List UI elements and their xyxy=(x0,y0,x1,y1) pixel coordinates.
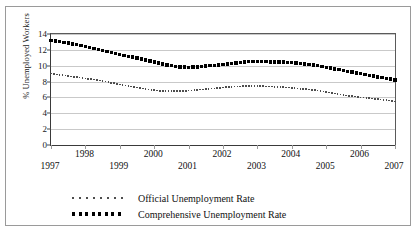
x-axis-tick-label: 2005 xyxy=(316,161,335,171)
data-point xyxy=(294,87,296,89)
data-point xyxy=(237,86,239,88)
data-point xyxy=(303,62,306,65)
data-point xyxy=(148,59,151,62)
data-point xyxy=(247,60,250,63)
data-point xyxy=(170,64,173,67)
legend-item-comprehensive: Comprehensive Unemployment Rate xyxy=(70,206,370,222)
data-point xyxy=(239,86,241,88)
data-point xyxy=(290,61,293,64)
data-point xyxy=(174,65,177,68)
data-point xyxy=(317,90,319,92)
data-point xyxy=(265,86,267,88)
data-point xyxy=(351,95,353,97)
y-axis-tick-mark xyxy=(47,129,51,130)
y-axis-tick-label: 12 xyxy=(38,45,47,55)
data-point xyxy=(90,78,92,80)
y-axis-tick-label: 10 xyxy=(38,61,47,71)
data-point xyxy=(56,74,58,76)
data-point xyxy=(204,64,207,67)
data-point xyxy=(305,88,307,90)
data-point xyxy=(325,91,327,93)
data-point xyxy=(348,95,350,97)
data-point xyxy=(182,90,184,92)
legend-marker-dot xyxy=(121,197,123,199)
data-point xyxy=(262,85,264,87)
data-point xyxy=(153,89,155,91)
data-point xyxy=(228,86,230,88)
x-axis-tick-mark xyxy=(189,145,190,149)
data-point xyxy=(62,41,65,44)
data-point xyxy=(145,88,147,90)
data-point xyxy=(288,87,290,89)
data-point xyxy=(363,97,365,99)
data-point xyxy=(299,62,302,65)
x-axis-tick-label: 1998 xyxy=(75,149,94,159)
legend-marker-dot xyxy=(72,212,75,215)
data-point xyxy=(359,72,362,75)
data-point xyxy=(131,55,134,58)
data-point xyxy=(199,89,201,91)
data-point xyxy=(226,62,229,65)
data-point xyxy=(225,86,227,88)
data-point xyxy=(194,89,196,91)
y-axis-tick-mark xyxy=(47,97,51,98)
data-point xyxy=(88,46,91,49)
gridline xyxy=(51,129,395,130)
data-point xyxy=(374,98,376,100)
data-point xyxy=(280,86,282,88)
data-point xyxy=(337,68,340,71)
data-point xyxy=(331,92,333,94)
data-point xyxy=(144,58,147,61)
data-point xyxy=(208,64,211,67)
data-point xyxy=(333,67,336,70)
data-point xyxy=(219,87,221,89)
data-point xyxy=(165,63,168,66)
legend-item-official: Official Unemployment Rate xyxy=(70,190,370,206)
data-point xyxy=(213,64,216,67)
data-point xyxy=(259,85,261,87)
data-point xyxy=(102,80,104,82)
data-point xyxy=(234,86,236,88)
gridline xyxy=(51,97,395,98)
data-point xyxy=(173,90,175,92)
x-axis-tick-label: 2002 xyxy=(213,149,232,159)
x-axis-tick-label: 1997 xyxy=(41,161,60,171)
legend-marker-dot xyxy=(72,197,74,199)
x-axis-tick-label: 2001 xyxy=(178,161,197,171)
data-point xyxy=(297,88,299,90)
data-point xyxy=(251,85,253,87)
data-point xyxy=(171,90,173,92)
data-point xyxy=(179,90,181,92)
data-point xyxy=(363,73,366,76)
y-axis-tick-mark xyxy=(47,81,51,82)
data-point xyxy=(108,81,110,83)
data-point xyxy=(239,61,242,64)
data-point xyxy=(125,85,127,87)
data-point xyxy=(202,89,204,91)
data-point xyxy=(196,89,198,91)
legend-swatch-official-icon xyxy=(70,193,126,203)
y-axis-tick-mark xyxy=(47,49,51,50)
data-point xyxy=(216,87,218,89)
data-point xyxy=(256,60,259,63)
data-point xyxy=(130,86,132,88)
data-point xyxy=(282,86,284,88)
legend-marker-dot xyxy=(79,197,81,199)
data-point xyxy=(294,61,297,64)
data-point xyxy=(217,63,220,66)
data-point xyxy=(337,93,339,95)
data-point xyxy=(357,96,359,98)
data-point xyxy=(101,49,104,52)
data-point xyxy=(73,76,75,78)
data-point xyxy=(350,70,353,73)
data-point xyxy=(386,99,388,101)
data-point xyxy=(110,51,113,54)
data-point xyxy=(159,90,161,92)
x-axis-tick-label: 2000 xyxy=(144,149,163,159)
data-point xyxy=(329,66,332,69)
data-point xyxy=(58,40,61,43)
data-point xyxy=(391,100,393,102)
legend-label-official: Official Unemployment Rate xyxy=(138,193,254,204)
data-point xyxy=(162,90,164,92)
x-axis-tick-mark xyxy=(120,145,121,149)
